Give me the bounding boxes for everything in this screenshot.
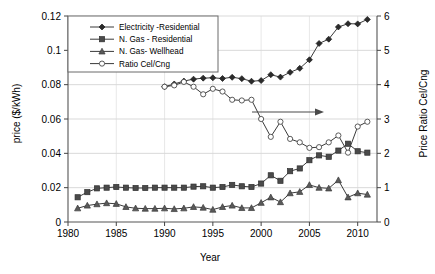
svg-text:4: 4 <box>384 79 390 90</box>
svg-text:0.02: 0.02 <box>42 182 62 193</box>
svg-text:2: 2 <box>384 148 390 159</box>
svg-text:0.08: 0.08 <box>42 79 62 90</box>
legend-label: Ratio Cel/Cng <box>119 60 170 69</box>
svg-text:1990: 1990 <box>153 228 176 239</box>
svg-text:2010: 2010 <box>347 228 370 239</box>
svg-text:0.1: 0.1 <box>47 45 61 56</box>
svg-text:1985: 1985 <box>105 228 128 239</box>
series-n-gas-wellhead <box>75 177 371 212</box>
svg-text:2000: 2000 <box>250 228 273 239</box>
series-ratio-cel-cng <box>162 79 370 155</box>
legend-label: Electricity -Residential <box>119 23 200 32</box>
svg-text:2005: 2005 <box>298 228 321 239</box>
svg-text:1980: 1980 <box>57 228 80 239</box>
svg-text:1: 1 <box>384 182 390 193</box>
svg-text:5: 5 <box>384 45 390 56</box>
svg-text:0.04: 0.04 <box>42 148 62 159</box>
svg-text:3: 3 <box>384 114 390 125</box>
svg-text:0.12: 0.12 <box>42 11 62 22</box>
chart-plot: 00.020.040.060.080.10.120123456198019851… <box>0 0 435 274</box>
chart-container: price ($/kWh) Price Ratio Cel/Cng Year 0… <box>0 0 435 274</box>
svg-text:0: 0 <box>55 217 61 228</box>
svg-text:0.06: 0.06 <box>42 114 62 125</box>
svg-text:0: 0 <box>384 217 390 228</box>
annotation-arrow <box>252 109 324 116</box>
svg-text:1995: 1995 <box>202 228 225 239</box>
chart-legend: Electricity -ResidentialN. Gas - Residen… <box>68 16 218 72</box>
legend-label: N. Gas - Residential <box>119 35 192 44</box>
svg-text:6: 6 <box>384 11 390 22</box>
legend-label: N. Gas- Wellhead <box>119 47 184 56</box>
